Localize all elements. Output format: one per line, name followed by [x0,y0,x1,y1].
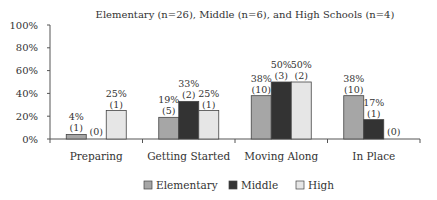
data-label-count: (2) [295,70,308,81]
data-label-count: (1) [202,99,215,110]
legend-label-middle: Middle [241,179,278,191]
legend: ElementaryMiddleHigh [144,179,334,191]
data-label-count: (3) [275,70,288,81]
data-label-percent: 4% [69,111,84,122]
bar-high [106,111,126,140]
bar-elementary [159,117,179,139]
data-label-percent: 25% [106,88,127,99]
data-label-percent: 50% [271,59,292,70]
x-tick-label: Preparing [70,150,123,162]
chart-title: Elementary (n=26), Middle (n=6), and Hig… [96,9,395,20]
data-label-percent: 17% [363,97,384,108]
bar-middle [179,101,199,139]
y-tick-label: 20% [16,111,38,122]
x-tick-label: Getting Started [147,150,230,162]
data-label-percent: 19% [158,94,179,105]
legend-label-high: High [308,179,334,191]
y-axis: 0%20%40%60%80%100% [9,20,50,145]
data-label-count: (0) [387,126,400,137]
data-label-count: (5) [162,105,175,116]
data-label-count: (10) [251,84,271,95]
bar-middle [364,120,384,139]
y-tick-label: 60% [16,65,38,76]
legend-swatch-elementary [144,181,152,189]
bar-elementary [344,96,364,139]
y-tick-label: 80% [16,42,38,53]
grouped-bar-chart: Elementary (n=26), Middle (n=6), and Hig… [0,0,437,200]
x-tick-label: Moving Along [244,150,318,162]
data-label-percent: 38% [251,73,272,84]
data-label-count: (2) [182,89,195,100]
data-label-count: (10) [344,84,364,95]
legend-swatch-high [296,181,304,189]
legend-label-elementary: Elementary [156,179,218,191]
data-label-count: (0) [90,126,103,137]
data-label-percent: 25% [198,88,219,99]
x-axis: PreparingGetting StartedMoving AlongIn P… [50,139,420,162]
bar-high [291,82,311,139]
data-label-percent: 38% [343,73,364,84]
data-label-count: (1) [110,99,123,110]
bar-middle [271,82,291,139]
legend-swatch-middle [229,181,237,189]
data-label-percent: 50% [291,59,312,70]
y-tick-label: 0% [22,134,38,145]
data-label-count: (1) [367,108,380,119]
bar-high [199,111,219,140]
x-tick-label: In Place [352,150,395,162]
data-label-count: (1) [70,122,83,133]
bar-elementary [251,96,271,139]
y-tick-label: 100% [9,20,38,31]
bar-elementary [66,134,86,139]
data-label-percent: 33% [178,78,199,89]
y-tick-label: 40% [16,88,38,99]
